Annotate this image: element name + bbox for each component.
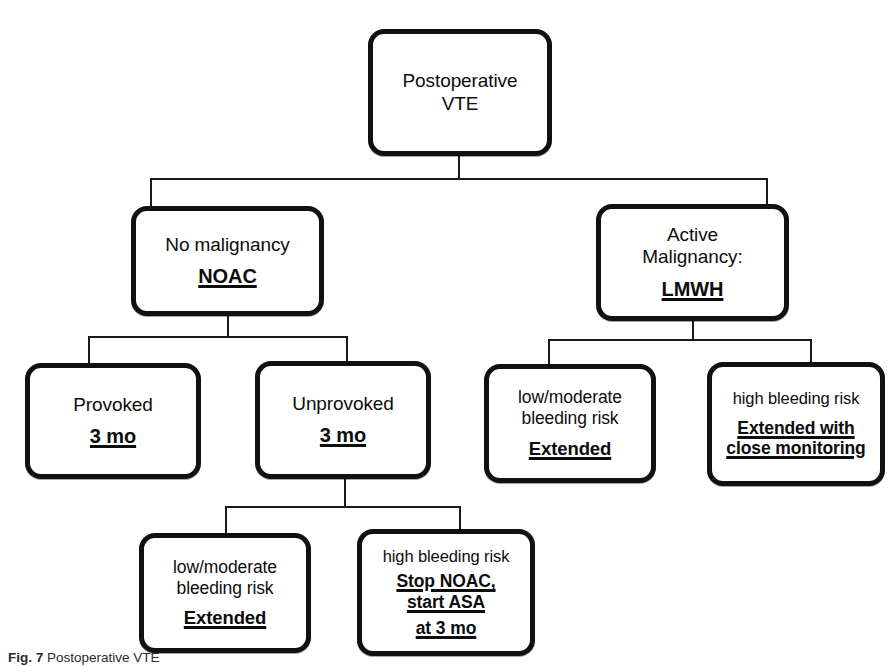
edge-active-malignancy-bus <box>548 339 812 341</box>
edge-root-stem <box>458 155 460 179</box>
node-provoked[interactable]: Provoked 3 mo <box>25 363 201 479</box>
edge-root-to-no-malignancy <box>150 178 152 208</box>
node-emphasis: Extended with <box>737 418 854 439</box>
figure-caption-label: Fig. 7 <box>8 650 43 665</box>
edge-no-malignancy-to-unprovoked <box>346 336 348 362</box>
node-emphasis: Stop NOAC, <box>396 571 495 592</box>
node-line: bleeding risk <box>177 578 274 599</box>
node-unprovoked-low-moderate-bleeding-risk[interactable]: low/moderate bleeding risk Extended <box>139 533 311 653</box>
node-line: Active <box>667 224 718 246</box>
edge-no-malignancy-bus <box>88 336 348 338</box>
node-emphasis: close monitoring <box>726 438 865 459</box>
edge-active-malignancy-to-high-risk <box>810 339 812 363</box>
node-line: No malignancy <box>165 234 289 256</box>
edge-no-malignancy-to-provoked <box>88 336 90 364</box>
node-no-malignancy[interactable]: No malignancy NOAC <box>131 206 324 316</box>
node-unprovoked-high-bleeding-risk[interactable]: high bleeding risk Stop NOAC, start ASA … <box>357 529 535 656</box>
node-line: Unprovoked <box>292 393 393 415</box>
node-line: Postoperative <box>403 70 518 92</box>
node-active-malignancy[interactable]: Active Malignancy: LMWH <box>596 204 789 321</box>
node-malignancy-high-bleeding-risk[interactable]: high bleeding risk Extended with close m… <box>707 362 885 486</box>
edge-unprovoked-to-high-risk <box>459 506 461 530</box>
node-emphasis: NOAC <box>198 265 257 289</box>
node-line: Provoked <box>73 394 152 416</box>
node-emphasis: LMWH <box>662 278 724 302</box>
edge-no-malignancy-stem <box>227 315 229 337</box>
edge-active-malignancy-stem <box>692 320 694 340</box>
node-emphasis: at 3 mo <box>416 618 477 639</box>
node-malignancy-low-moderate-bleeding-risk[interactable]: low/moderate bleeding risk Extended <box>484 364 656 483</box>
edge-unprovoked-to-low-risk <box>225 506 227 534</box>
node-unprovoked[interactable]: Unprovoked 3 mo <box>255 361 431 479</box>
node-line: high bleeding risk <box>733 389 860 408</box>
node-line: low/moderate <box>518 387 622 408</box>
edge-root-to-active-malignancy <box>766 178 768 206</box>
node-emphasis: Extended <box>529 438 611 460</box>
node-emphasis: 3 mo <box>90 425 136 449</box>
edge-unprovoked-bus <box>225 506 461 508</box>
node-line: low/moderate <box>173 557 277 578</box>
node-line: VTE <box>442 93 479 115</box>
edge-root-bus <box>150 178 768 180</box>
node-emphasis: 3 mo <box>320 424 366 448</box>
figure-caption-text: Postoperative VTE <box>47 650 160 665</box>
node-line: Malignancy: <box>642 246 742 268</box>
edge-active-malignancy-to-low-risk <box>548 339 550 365</box>
node-emphasis: start ASA <box>407 592 485 613</box>
node-emphasis: Extended <box>184 607 266 629</box>
edge-unprovoked-stem <box>344 478 346 508</box>
node-postoperative-vte[interactable]: Postoperative VTE <box>368 29 552 156</box>
figure-canvas: Postoperative VTE No malignancy NOAC Act… <box>0 0 892 666</box>
figure-caption: Fig. 7 Postoperative VTE <box>8 650 160 665</box>
node-line: bleeding risk <box>522 408 619 429</box>
node-line: high bleeding risk <box>383 547 510 566</box>
